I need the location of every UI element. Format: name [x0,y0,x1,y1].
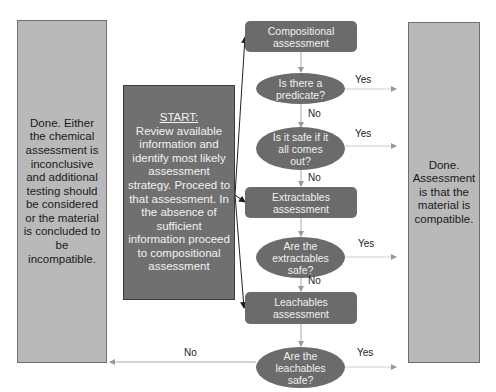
yes-label: Yes [355,74,371,85]
predicate-decision-node: Is there a predicate? [256,73,345,104]
node-label: Extractables assessment [245,191,357,215]
start-box: START: Review available information and … [123,85,235,300]
no-label: No [184,347,197,358]
node-label: Is it safe if it all comes out? [256,131,345,167]
node-label: Compositional assessment [245,25,357,49]
yes-label: Yes [357,347,373,358]
node-label: Is there a predicate? [256,77,345,101]
no-label: No [308,172,321,183]
compositional-assessment-node: Compositional assessment [245,21,357,52]
outcome-compatible-box: Done. Assessment is that the material is… [408,22,480,363]
leachables-assessment-node: Leachables assessment [245,292,357,324]
outcome-compatible-text: Done. Assessment is that the material is… [412,159,476,227]
start-title: START: [127,111,231,125]
node-label: Are the leachables safe? [256,350,345,386]
no-label: No [308,108,321,119]
no-label: No [308,275,321,286]
yes-label: Yes [358,238,374,249]
node-label: Are the extractables safe? [256,240,345,276]
leachables-decision-node: Are the leachables safe? [256,347,345,388]
extractables-assessment-node: Extractables assessment [245,187,357,218]
outcome-incompatible-text: Done. Either the chemical assessment is … [22,117,102,267]
yes-label: Yes [355,128,371,139]
start-text: Review available information and identif… [127,125,231,275]
all-comes-out-decision-node: Is it safe if it all comes out? [256,127,345,170]
outcome-incompatible-box: Done. Either the chemical assessment is … [17,20,107,363]
extractables-decision-node: Are the extractables safe? [256,237,345,278]
node-label: Leachables assessment [245,296,357,320]
